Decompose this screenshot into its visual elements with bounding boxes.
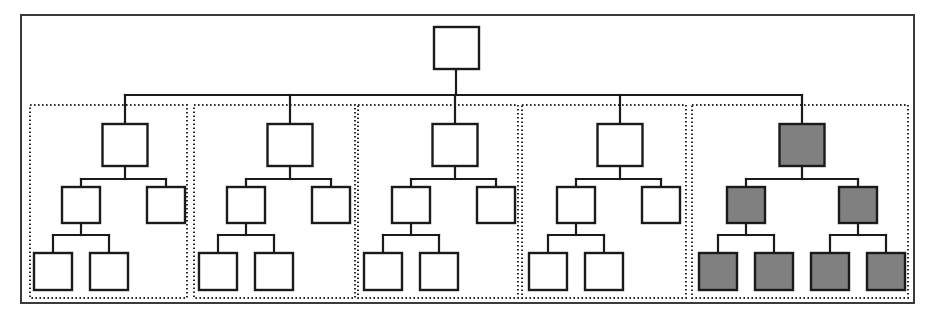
- node-g4-n3[interactable]: [642, 187, 680, 223]
- node-g2-n4[interactable]: [199, 253, 237, 290]
- node-g4-n1[interactable]: [598, 124, 643, 166]
- node-g5-n5-highlighted[interactable]: [755, 253, 793, 290]
- node-g3-n1[interactable]: [433, 124, 478, 166]
- node-g1-n2[interactable]: [62, 187, 100, 223]
- node-g1-n4[interactable]: [34, 253, 72, 290]
- node-g1-n5[interactable]: [90, 253, 128, 290]
- node-g5-n7-highlighted[interactable]: [867, 253, 905, 290]
- node-g3-n2[interactable]: [392, 187, 430, 223]
- root-node[interactable]: [434, 27, 479, 69]
- hierarchy-diagram: [0, 0, 931, 321]
- node-g1-n3[interactable]: [147, 187, 185, 223]
- node-g2-n2[interactable]: [227, 187, 265, 223]
- node-g1-n1[interactable]: [103, 124, 148, 166]
- node-g3-n5[interactable]: [420, 253, 458, 290]
- node-g5-n6-highlighted[interactable]: [811, 253, 849, 290]
- node-g5-n1-highlighted[interactable]: [780, 124, 825, 166]
- node-g3-n4[interactable]: [364, 253, 402, 290]
- node-g4-n4[interactable]: [529, 253, 567, 290]
- node-g5-n2-highlighted[interactable]: [727, 187, 765, 223]
- hierarchy-svg: [0, 0, 931, 321]
- node-g2-n3[interactable]: [312, 187, 350, 223]
- node-g5-n4-highlighted[interactable]: [699, 253, 737, 290]
- node-g2-n5[interactable]: [255, 253, 293, 290]
- node-g4-n2[interactable]: [557, 187, 595, 223]
- node-g4-n5[interactable]: [585, 253, 623, 290]
- node-g3-n3[interactable]: [477, 187, 515, 223]
- node-g5-n3-highlighted[interactable]: [839, 187, 877, 223]
- node-g2-n1[interactable]: [268, 124, 313, 166]
